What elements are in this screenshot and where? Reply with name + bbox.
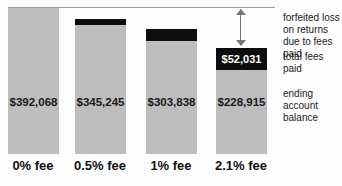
bar-0-5pct: $345,245 [75, 19, 126, 154]
bar-0pct: $392,068 [8, 8, 59, 154]
annotation-balance: ending account balance [283, 88, 342, 124]
category-label: 0% fee [0, 158, 68, 173]
bar-2-1pct: $52,031 $228,915 [216, 48, 267, 154]
bar-value: $228,915 [216, 96, 267, 108]
bar-1pct: $303,838 [146, 29, 197, 154]
fees-segment [75, 19, 126, 25]
annotation-fees: total fees paid [283, 51, 342, 75]
arrow-down-icon [236, 40, 246, 46]
category-label: 2.1% fee [206, 158, 276, 173]
bar-value: $303,838 [146, 96, 197, 108]
bar-value: $392,068 [8, 96, 59, 108]
double-arrow-line [240, 9, 241, 44]
fees-segment: $52,031 [216, 48, 267, 70]
category-label: 0.5% fee [65, 158, 135, 173]
arrow-up-icon [236, 9, 246, 15]
fees-segment [146, 29, 197, 41]
bar-value: $345,245 [75, 96, 126, 108]
category-label: 1% fee [136, 158, 206, 173]
